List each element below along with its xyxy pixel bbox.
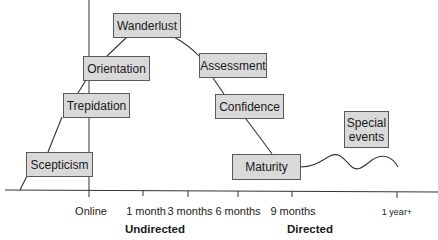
stage-maturity: Maturity — [232, 154, 301, 180]
stage-trepidation: Trepidation — [63, 93, 130, 118]
stage-special-events: Special events — [344, 111, 389, 148]
stage-orientation: Orientation — [83, 56, 150, 81]
stage-label-line1: Special — [347, 116, 386, 130]
stage-label: Trepidation — [67, 99, 127, 113]
stage-label-line2: events — [349, 130, 384, 144]
stage-assessment: Assessment — [199, 53, 267, 78]
time-axis — [5, 190, 438, 192]
stage-label: Assessment — [200, 59, 265, 73]
stage-label: Maturity — [245, 160, 288, 174]
stage-scepticism: Scepticism — [26, 152, 93, 177]
tick-label-6-months: 6 months — [215, 205, 260, 217]
phase-directed: Directed — [287, 223, 333, 235]
tick-label-1-month: 1 month — [126, 205, 166, 217]
stage-label: Wanderlust — [117, 19, 177, 33]
tick-label-9-months: 9 months — [270, 205, 315, 217]
stage-label: Orientation — [87, 62, 146, 76]
tick-label-online: Online — [75, 205, 107, 217]
stage-confidence: Confidence — [215, 94, 284, 119]
tick-label-3-months: 3 months — [167, 205, 212, 217]
stage-label: Confidence — [219, 100, 280, 114]
stage-wanderlust: Wanderlust — [113, 13, 181, 38]
tick-label-1-year: 1 year+ — [382, 207, 412, 217]
stage-label: Scepticism — [30, 158, 88, 172]
phase-undirected: Undirected — [125, 223, 185, 235]
